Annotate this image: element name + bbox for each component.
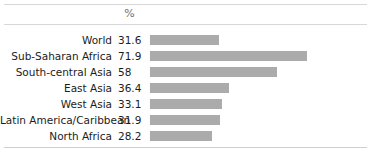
chart-row: West Asia33.1 — [0, 97, 371, 113]
chart-row: South-central Asia58 — [0, 65, 371, 81]
row-category-label: West Asia — [0, 97, 112, 112]
bottom-rule — [4, 147, 367, 148]
row-value-label: 71.9 — [118, 49, 148, 64]
value-bar — [150, 67, 277, 77]
bar-track — [150, 33, 365, 48]
value-bar — [150, 51, 307, 61]
row-value-label: 31.9 — [118, 113, 148, 128]
value-bar — [150, 131, 212, 141]
chart-row: East Asia36.4 — [0, 81, 371, 97]
row-category-label: Sub-Saharan Africa — [0, 49, 112, 64]
chart-row: Sub-Saharan Africa71.9 — [0, 49, 371, 65]
value-bar — [150, 99, 222, 109]
row-category-label: South-central Asia — [0, 65, 112, 80]
top-rule — [4, 4, 367, 5]
bar-track — [150, 129, 365, 144]
row-value-label: 33.1 — [118, 97, 148, 112]
chart-row: Latin America/Caribbean31.9 — [0, 113, 371, 129]
bar-track — [150, 113, 365, 128]
row-value-label: 28.2 — [118, 129, 148, 144]
row-value-label: 58 — [118, 65, 148, 80]
bar-chart-figure: % World31.6Sub-Saharan Africa71.9South-c… — [0, 0, 371, 160]
bar-track — [150, 49, 365, 64]
row-category-label: Latin America/Caribbean — [0, 113, 112, 128]
chart-rows: World31.6Sub-Saharan Africa71.9South-cen… — [0, 33, 371, 145]
row-value-label: 31.6 — [118, 33, 148, 48]
bar-track — [150, 81, 365, 96]
row-category-label: World — [0, 33, 112, 48]
bar-track — [150, 65, 365, 80]
value-bar — [150, 35, 219, 45]
chart-row: World31.6 — [0, 33, 371, 49]
header-separator-rule — [4, 24, 367, 25]
value-bar — [150, 115, 220, 125]
row-category-label: North Africa — [0, 129, 112, 144]
chart-header: % — [0, 7, 371, 22]
value-bar — [150, 83, 229, 93]
row-category-label: East Asia — [0, 81, 112, 96]
chart-row: North Africa28.2 — [0, 129, 371, 145]
percent-column-header: % — [0, 7, 259, 21]
bar-track — [150, 97, 365, 112]
row-value-label: 36.4 — [118, 81, 148, 96]
